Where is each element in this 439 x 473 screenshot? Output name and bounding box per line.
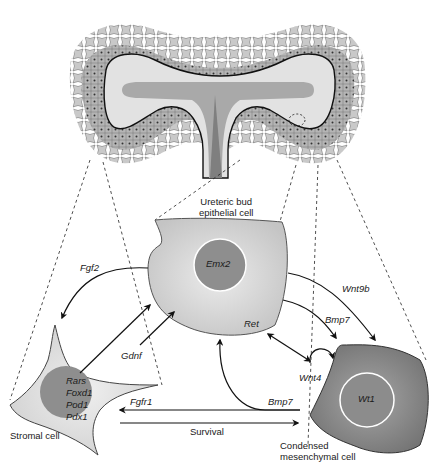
fgf2-arrow bbox=[62, 268, 148, 318]
ureteric-label-line1: Ureteric bud bbox=[199, 196, 253, 207]
survival-label: Survival bbox=[190, 426, 224, 437]
kidney-schematic bbox=[70, 24, 366, 178]
mesenchymal-cell-label: Condensed mesenchymal cell bbox=[280, 440, 356, 462]
emx2-label: Emx2 bbox=[206, 258, 230, 269]
ret-wnt4-arrow bbox=[268, 334, 310, 361]
gdnf-arrow bbox=[140, 312, 174, 345]
mesenchymal-label-line1: Condensed bbox=[280, 440, 356, 451]
ret-label: Ret bbox=[244, 318, 259, 329]
stromal-to-ureteric-arrow bbox=[80, 305, 150, 373]
mesenchymal-label-line2: mesenchymal cell bbox=[280, 451, 356, 462]
wnt9b-label: Wnt9b bbox=[342, 283, 369, 294]
bmp7-bottom-label: Bmp7 bbox=[268, 396, 293, 407]
ureteric-cell-label: Ureteric bud epithelial cell bbox=[199, 196, 253, 218]
fgfr1-label: Fgfr1 bbox=[130, 396, 152, 407]
bmp7-top-label: Bmp7 bbox=[325, 314, 350, 325]
wt1-label: Wt1 bbox=[358, 393, 375, 404]
ureteric-label-line2: epithelial cell bbox=[199, 207, 253, 218]
gdnf-label: Gdnf bbox=[121, 350, 142, 361]
fgf2-label: Fgf2 bbox=[80, 262, 99, 273]
wnt4-loop-arrow bbox=[310, 349, 333, 363]
wnt4-label: Wnt4 bbox=[299, 372, 321, 383]
stromal-cell-label: Stromal cell bbox=[10, 430, 60, 441]
